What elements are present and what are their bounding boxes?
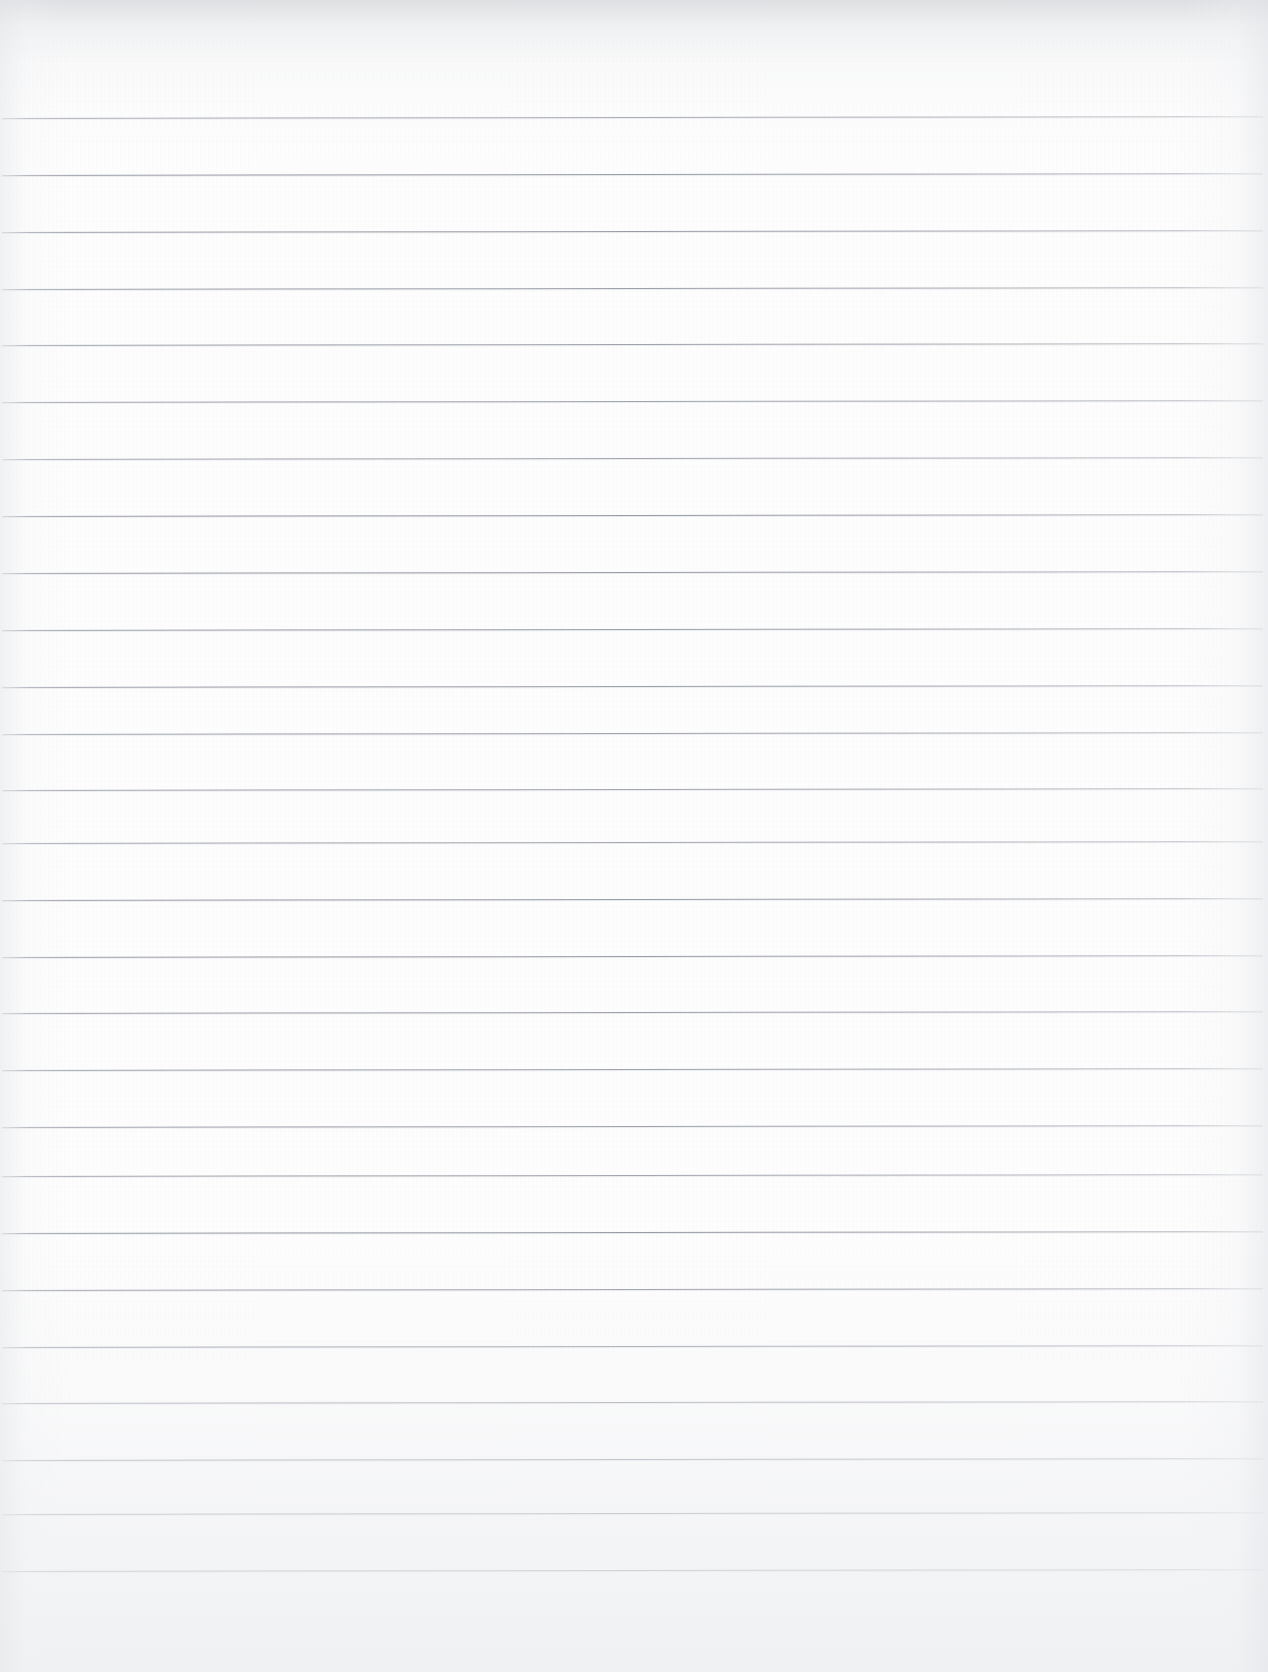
- paper-background: [0, 0, 1268, 1672]
- scanned-lined-paper-page: [0, 0, 1268, 1672]
